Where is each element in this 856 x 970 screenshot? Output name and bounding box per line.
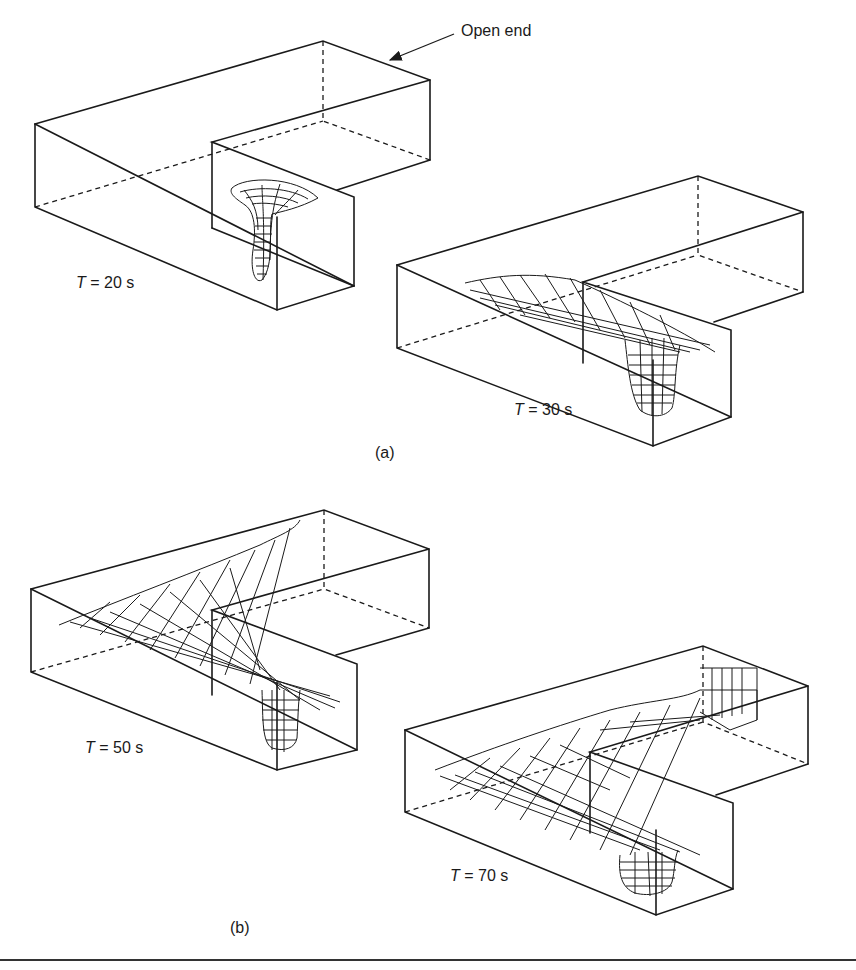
open-end-arrow [390,34,454,60]
time-value: = 70 s [460,867,508,884]
time-label-t70: T = 70 s [450,867,508,885]
time-value: = 20 s [86,274,134,291]
flow-front-mesh-t50 [59,520,340,752]
caption-a: (a) [375,444,395,462]
time-value: = 50 s [95,739,143,756]
l-duct-box-t30 [397,176,803,446]
caption-b: (b) [230,919,250,937]
time-label-t20: T = 20 s [76,274,134,292]
time-variable: T [450,867,460,884]
time-label-t50: T = 50 s [85,739,143,757]
l-duct-box-t20 [35,41,430,310]
bottom-rule [0,959,856,961]
open-end-label: Open end [461,22,531,40]
flow-front-mesh-t30 [465,274,715,416]
time-variable: T [514,401,524,418]
diagram-canvas [0,0,856,970]
time-variable: T [85,739,95,756]
l-duct-box-t50 [31,510,429,770]
flow-front-mesh-t70 [435,668,757,896]
time-value: = 30 s [524,401,572,418]
time-variable: T [76,274,86,291]
time-label-t30: T = 30 s [514,401,572,419]
